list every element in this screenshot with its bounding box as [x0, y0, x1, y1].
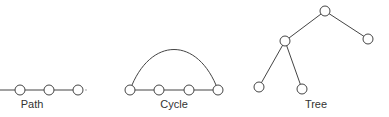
path-node: [15, 85, 25, 95]
cycle-label: Cycle: [160, 98, 188, 110]
path-label: Path: [21, 98, 44, 110]
cycle-node: [213, 85, 223, 95]
cycle-graph: [125, 50, 223, 96]
cycle-node: [184, 85, 194, 95]
path-node: [73, 85, 83, 95]
tree-edge: [285, 11, 325, 41]
tree-graph: [254, 6, 373, 94]
path-graph: [0, 85, 87, 95]
trailing-dot: [85, 89, 86, 90]
path-node: [44, 85, 54, 95]
cycle-arc-edge: [130, 50, 218, 91]
tree-edge: [325, 11, 368, 39]
tree-node: [280, 36, 290, 46]
tree-edge: [259, 41, 285, 87]
graph-types-diagram: [0, 0, 389, 117]
tree-label: Tree: [305, 98, 327, 110]
cycle-node: [125, 85, 135, 95]
tree-edge: [285, 41, 302, 89]
tree-node: [297, 84, 307, 94]
tree-node: [363, 34, 373, 44]
cycle-node: [154, 85, 164, 95]
tree-node: [254, 82, 264, 92]
tree-node: [320, 6, 330, 16]
